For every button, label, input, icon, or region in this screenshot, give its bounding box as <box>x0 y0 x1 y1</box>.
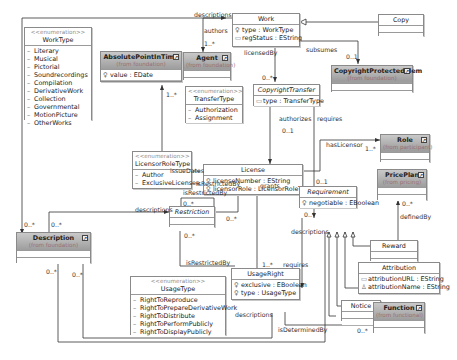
label-licensed-by: licensedBy <box>244 49 277 56</box>
label-descriptions: descriptions <box>135 206 173 213</box>
label-mult: 0..* <box>357 327 368 334</box>
label-mult: 0..* <box>304 211 315 218</box>
class-requirement[interactable]: Requirement ♀negotiable : EBoolean <box>299 186 357 208</box>
class-reward[interactable]: Reward <box>370 240 418 261</box>
class-usage-right[interactable]: UsageRight ♀exclusive : EBoolean ♀type :… <box>231 268 300 300</box>
attribute[interactable]: ▭type : TransferType <box>256 97 317 105</box>
class-price-plan[interactable]: ↗ PricePlan(from pricing) <box>377 169 427 200</box>
class-copyright-transfer[interactable]: CopyrightTransfer ▭type : TransferType <box>253 84 320 106</box>
label-defined-by: definedBy <box>400 213 431 220</box>
enum-usage-type[interactable]: <<enumeration>>UsageType –RightToReprodu… <box>130 276 226 335</box>
label-mult: 0..* <box>51 221 62 228</box>
attribute[interactable]: ♀type : WorkType <box>235 26 297 34</box>
class-name: Work <box>235 15 297 23</box>
label-requires: requires <box>317 115 342 122</box>
label-is-restricted-by: isRestrictedBy <box>183 189 227 196</box>
label-is-restricted-by: isRestrictedBy <box>196 180 240 187</box>
label-mult: 0..1 <box>282 127 294 134</box>
label-descriptions: descriptions <box>194 11 232 18</box>
import-icon: ↗ <box>222 55 228 61</box>
class-attribution[interactable]: Attribution ▭attributionURL : EString ♙a… <box>358 262 440 294</box>
import-icon: ↗ <box>418 172 424 178</box>
label-mult: 1..* <box>365 145 376 152</box>
class-role[interactable]: ↗ Role(from participant) <box>380 134 430 162</box>
label-mult: 0..1 <box>346 53 358 60</box>
import-icon: ↗ <box>82 235 88 241</box>
label-grants: grants <box>260 182 280 189</box>
enum-work-type[interactable]: <<enumeration>>WorkType –Literary –Music… <box>24 27 92 120</box>
attribute[interactable]: ♀exclusive : EBoolean <box>234 281 297 289</box>
enum-transfer-type[interactable]: <<enumeration>>TransferType –Authorizati… <box>185 86 243 123</box>
label-authorizes: authorizes <box>279 115 311 122</box>
label-mult: 0..* <box>24 221 35 228</box>
class-copy[interactable]: Copy <box>378 14 424 36</box>
label-mult: 1..* <box>166 91 177 98</box>
class-restriction[interactable]: Restriction <box>169 206 215 227</box>
class-absolute-point-in-time[interactable]: ↗ AbsolutePointInTime(from foundation) ♀… <box>100 51 182 82</box>
label-mult: 0..* <box>402 200 413 207</box>
attribute[interactable]: ♙attributionName : EString <box>361 283 437 291</box>
import-icon: ↗ <box>416 305 422 311</box>
attribute[interactable]: ♀negotiable : EBoolean <box>302 199 354 207</box>
attribute[interactable]: ♀type : UsageType <box>234 289 297 297</box>
label-mult: 0..* <box>262 74 273 81</box>
label-descriptions: descriptions <box>291 228 329 235</box>
import-icon: ↗ <box>421 137 427 143</box>
import-icon: ↗ <box>404 68 410 74</box>
label-is-determined-by: isDeterminedBy <box>278 326 328 333</box>
label-mult: 0..* <box>184 232 195 239</box>
label-mult: 0..* <box>46 268 57 275</box>
attribute[interactable]: ▭attributionURL : EString <box>361 275 437 283</box>
attribute[interactable]: ♀value : EDate <box>103 71 179 79</box>
class-work[interactable]: Work ♀type : WorkType ▭regStatus : EStri… <box>232 13 300 47</box>
label-requires: requires <box>283 261 308 268</box>
label-has-licensor: hasLicensor <box>326 141 363 148</box>
class-description[interactable]: ↗ Description(from foundation) <box>16 232 91 263</box>
label-mult: 0..* <box>72 271 83 278</box>
label-mult: 1..* <box>262 261 273 268</box>
attribute[interactable]: ▭regStatus : EString <box>235 34 297 42</box>
label-issue-dates: issueDates <box>170 167 204 174</box>
import-icon: ↗ <box>173 54 179 60</box>
label-mult: 0..1 <box>316 178 328 185</box>
class-agent[interactable]: ↗ Agent(from foundation) <box>183 52 231 80</box>
label-descriptions: descriptions <box>235 311 273 318</box>
label-mult: 1..* <box>204 40 215 47</box>
label-is-restricted-by: isRestrictedBy <box>186 259 230 266</box>
label-authors: authors <box>204 27 228 34</box>
class-copyright-protected-elem[interactable]: ↗ CopyrightProtectedElem(from foundation… <box>331 65 413 92</box>
label-mult: 0..* <box>226 215 237 222</box>
label-mult: 0..* <box>183 200 194 207</box>
class-function[interactable]: ↗ Function(from functional) <box>373 302 425 333</box>
label-subsumes: subsumes <box>306 46 337 53</box>
